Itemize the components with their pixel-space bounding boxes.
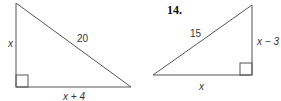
diagram-canvas: x 20 x + 4 14. 15 x − 3 x	[0, 0, 281, 101]
right-horizontal-leg-label: x	[198, 81, 205, 92]
right-angle-marker	[240, 63, 252, 75]
left-triangle-outline	[16, 3, 131, 87]
right-hypotenuse-label: 15	[190, 28, 202, 39]
left-triangle: x 20 x + 4	[7, 3, 131, 101]
left-hypotenuse-label: 20	[77, 33, 89, 44]
left-horizontal-leg-label: x + 4	[62, 91, 85, 101]
right-vertical-leg-label: x − 3	[256, 36, 279, 47]
left-vertical-leg-label: x	[7, 38, 14, 49]
right-angle-marker	[16, 75, 28, 87]
right-triangle: 14. 15 x − 3 x	[153, 3, 279, 92]
problem-number: 14.	[167, 3, 182, 17]
